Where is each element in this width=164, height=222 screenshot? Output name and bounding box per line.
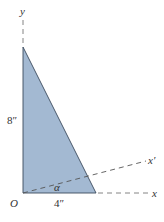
triangle-diagram: y x x′ O 8″ 4″ α bbox=[0, 0, 164, 222]
x-prime-axis-label: x′ bbox=[147, 154, 156, 166]
base-dimension-label: 4″ bbox=[54, 197, 64, 209]
triangle bbox=[23, 47, 96, 193]
x-axis-label: x bbox=[151, 187, 157, 199]
angle-alpha-label: α bbox=[54, 181, 60, 193]
y-axis-label: y bbox=[19, 5, 25, 17]
origin-label: O bbox=[10, 197, 18, 209]
height-dimension-label: 8″ bbox=[7, 114, 17, 126]
